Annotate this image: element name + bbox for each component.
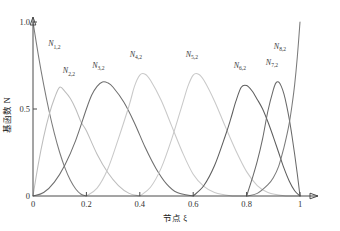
x-axis-title: 节点 ξ bbox=[163, 213, 187, 223]
x-tick-label: 1 bbox=[298, 199, 302, 209]
x-tick-label: 0.4 bbox=[134, 199, 145, 209]
x-tick-label: 0 bbox=[31, 199, 35, 209]
y-tick-label: 0.5 bbox=[19, 104, 30, 114]
curve-label-n62: N6,2 bbox=[233, 61, 247, 71]
bspline-basis-chart: 00.20.40.60.81 0.51.00 N1,2N2,2N3,2N4,2N… bbox=[0, 0, 340, 231]
curve-label-n12: N1,2 bbox=[47, 39, 61, 49]
curve-label-n52: N5,2 bbox=[185, 50, 199, 60]
x-tick-label: 0.8 bbox=[241, 199, 252, 209]
curve-label-n72: N7,2 bbox=[265, 58, 279, 68]
curve-label-n22: N2,2 bbox=[62, 66, 76, 76]
chart-canvas: 00.20.40.60.81 0.51.00 N1,2N2,2N3,2N4,2N… bbox=[0, 0, 340, 231]
curve-n22 bbox=[33, 87, 140, 196]
curves-group bbox=[33, 22, 300, 196]
curve-n72 bbox=[247, 82, 300, 196]
curve-labels-group: N1,2N2,2N3,2N4,2N5,2N6,2N7,2N8,2 bbox=[47, 39, 286, 76]
x-tick-label: 0.6 bbox=[188, 199, 199, 209]
x-ticks-group: 00.20.40.60.81 bbox=[31, 192, 302, 209]
curve-n52 bbox=[140, 74, 300, 196]
y-tick-label-zero: 0 bbox=[26, 191, 30, 201]
curve-label-n42: N4,2 bbox=[129, 50, 143, 60]
curve-label-n82: N8,2 bbox=[273, 42, 287, 52]
y-ticks-group: 0.51.00 bbox=[19, 17, 37, 201]
curve-n42 bbox=[86, 74, 246, 196]
curve-n62 bbox=[193, 85, 300, 196]
y-tick-label: 1.0 bbox=[19, 17, 30, 27]
x-tick-label: 0.2 bbox=[81, 199, 92, 209]
y-axis-title: 基函数 N bbox=[2, 97, 12, 132]
curve-label-n32: N3,2 bbox=[91, 61, 105, 71]
